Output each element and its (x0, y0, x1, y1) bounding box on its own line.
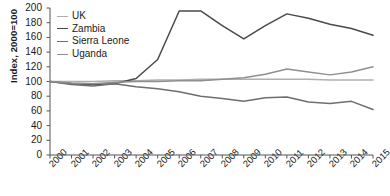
legend-line-icon (57, 16, 68, 17)
legend-line-icon (57, 41, 68, 42)
legend-item[interactable]: Uganda (57, 48, 129, 61)
legend-line-icon (57, 54, 68, 55)
legend-label: Zambia (72, 23, 105, 36)
legend-label: Sierra Leone (72, 35, 129, 48)
legend-item[interactable]: Zambia (57, 23, 129, 36)
legend: UKZambiaSierra LeoneUganda (57, 10, 129, 60)
line-chart: Index, 2000=100 020406080100120140160180… (0, 0, 390, 196)
series-line-sierra-leone (50, 82, 373, 110)
legend-line-icon (57, 28, 68, 29)
legend-item[interactable]: Sierra Leone (57, 35, 129, 48)
legend-label: Uganda (72, 48, 107, 61)
legend-item[interactable]: UK (57, 10, 129, 23)
legend-label: UK (72, 10, 86, 23)
